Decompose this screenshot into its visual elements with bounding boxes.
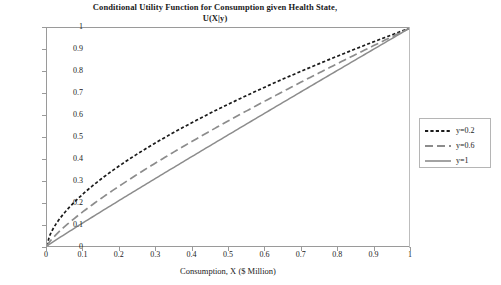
y-axis-tick-label: 0.8	[73, 67, 83, 75]
plot-area	[46, 27, 410, 247]
y-axis-tick	[42, 225, 46, 226]
y-axis-tick	[42, 181, 46, 182]
plot-right-border	[409, 27, 410, 248]
x-axis-tick-label: 0.8	[322, 251, 352, 259]
y-axis-tick-label: 0.7	[73, 89, 83, 97]
y-axis-tick-label: 0.5	[73, 133, 83, 141]
y-axis-tick-label: 0.6	[73, 111, 83, 119]
series-line-y-0-6	[47, 28, 410, 246]
legend-label: y=1	[456, 157, 469, 165]
series-line-y-1	[47, 28, 410, 246]
legend-item[interactable]: y=0.6	[424, 138, 487, 153]
legend-label: y=0.2	[456, 127, 475, 135]
y-axis-tick	[42, 115, 46, 116]
chart-subtitle: U(X|y)	[0, 13, 430, 24]
legend-item[interactable]: y=0.2	[424, 123, 487, 138]
legend-swatch-y-0-2	[424, 126, 452, 136]
legend-swatch-y-1	[424, 156, 452, 166]
y-axis-tick	[42, 27, 46, 28]
x-axis-tick-label: 0.1	[67, 251, 97, 259]
x-axis-tick-label: 0.5	[213, 251, 243, 259]
legend-swatch-y-0-6	[424, 141, 452, 151]
x-axis-tick-label: 0.3	[140, 251, 170, 259]
y-axis-tick	[42, 71, 46, 72]
x-axis-tick-label: 0.2	[104, 251, 134, 259]
y-axis-tick-label: 1	[79, 23, 83, 31]
y-axis-tick-label: 0.9	[73, 45, 83, 53]
y-axis-tick	[42, 93, 46, 94]
chart-title-block: Conditional Utility Function for Consump…	[0, 2, 430, 24]
series-line-y-0-2	[47, 28, 410, 246]
legend: y=0.2y=0.6y=1	[419, 118, 491, 168]
y-axis-tick	[42, 137, 46, 138]
y-axis-tick-label: 0.4	[73, 155, 83, 163]
plot-curves	[47, 28, 410, 246]
y-axis-tick-label: 0.1	[73, 221, 83, 229]
x-axis-tick-label: 1	[395, 251, 425, 259]
y-axis-tick	[42, 49, 46, 50]
legend-item[interactable]: y=1	[424, 153, 487, 168]
chart-root: Conditional Utility Function for Consump…	[0, 0, 501, 285]
y-axis-tick-label: 0.2	[73, 199, 83, 207]
y-axis-tick	[42, 203, 46, 204]
x-axis-title: Consumption, X ($ Million)	[46, 266, 410, 276]
y-axis-tick-label: 0.3	[73, 177, 83, 185]
x-axis-tick-label: 0.9	[359, 251, 389, 259]
x-axis-tick-label: 0.4	[177, 251, 207, 259]
x-axis-tick-label: 0.6	[249, 251, 279, 259]
x-axis-tick-label: 0	[31, 251, 61, 259]
y-axis-tick	[42, 159, 46, 160]
x-axis-tick-label: 0.7	[286, 251, 316, 259]
legend-label: y=0.6	[456, 142, 475, 150]
chart-title: Conditional Utility Function for Consump…	[93, 2, 337, 12]
